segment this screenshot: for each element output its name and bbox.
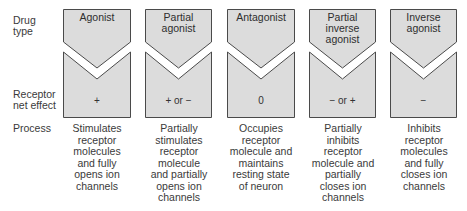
net-effect-value: + — [63, 95, 131, 106]
column-antagonist: Antagonist 0 Occupies receptor molecule … — [227, 0, 295, 211]
column-partial-inverse-agonist: Partial inverse agonist − or + Partially… — [309, 0, 377, 211]
process-description: Partially inhibits receptor molecule and… — [301, 123, 385, 204]
process-description: Stimulates receptor molecules and fully … — [55, 123, 139, 192]
drug-type-label: Partial inverse agonist — [309, 12, 376, 45]
row-label-net-effect: Receptor net effect — [13, 89, 56, 111]
column-agonist: Agonist + Stimulates receptor molecules … — [63, 0, 131, 211]
net-effect-value: − or + — [309, 95, 376, 106]
process-description: Partially stimulates receptor molecule a… — [137, 123, 221, 204]
process-description: Occupies receptor molecule and maintains… — [219, 123, 303, 192]
drug-type-label: Inverse agonist — [390, 12, 457, 34]
column-inverse-agonist: Inverse agonist − Inhibits receptor mole… — [390, 0, 458, 211]
net-effect-value: − — [390, 95, 457, 106]
drug-type-label: Antagonist — [227, 12, 295, 23]
column-partial-agonist: Partial agonist + or − Partially stimula… — [145, 0, 213, 211]
net-effect-value: 0 — [227, 95, 295, 106]
row-label-process: Process — [13, 123, 51, 134]
row-label-drug-type: Drug type — [13, 15, 36, 37]
drug-type-label: Partial agonist — [145, 12, 212, 34]
process-description: Inhibits receptor molecules and fully cl… — [382, 123, 466, 192]
net-effect-value: + or − — [145, 95, 212, 106]
drug-type-label: Agonist — [63, 12, 131, 23]
